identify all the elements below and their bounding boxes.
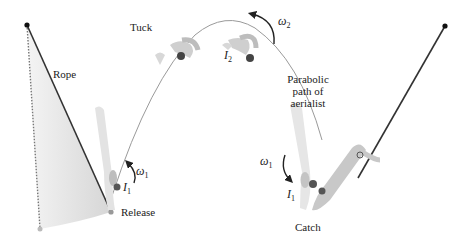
diagram-graphic bbox=[0, 0, 469, 246]
label-catch: Catch bbox=[295, 221, 321, 233]
symbol-omega2: ω2 bbox=[278, 14, 290, 30]
symbol-omega1-left: ω1 bbox=[136, 164, 148, 180]
label-path-line2: path of bbox=[283, 85, 333, 97]
subscript: 1 bbox=[291, 194, 295, 203]
trapeze-bar-rest bbox=[38, 227, 43, 232]
omega1-right-arrow bbox=[283, 155, 290, 180]
subscript: 1 bbox=[127, 187, 131, 196]
label-path-line3: aerialist bbox=[283, 97, 333, 109]
symbol-I1-right: I1 bbox=[287, 187, 295, 203]
pivot-right bbox=[442, 23, 447, 28]
symbol-I1-left: I1 bbox=[123, 180, 131, 196]
subscript: 1 bbox=[268, 161, 272, 170]
label-path-line1: Parabolic bbox=[283, 73, 333, 85]
label-parabolic-path: Parabolic path of aerialist bbox=[283, 73, 333, 109]
symbol-omega1-right: ω1 bbox=[260, 154, 272, 170]
trapeze-diagram: Rope Tuck Release Catch Parabolic path o… bbox=[0, 0, 469, 246]
label-tuck: Tuck bbox=[130, 21, 152, 33]
label-rope: Rope bbox=[53, 68, 76, 80]
label-release: Release bbox=[121, 206, 155, 218]
subscript: 1 bbox=[144, 171, 148, 180]
pivot-left bbox=[24, 22, 29, 27]
aerialist-tuck-left bbox=[155, 40, 198, 65]
catcher bbox=[312, 144, 380, 210]
symbol-I2: I2 bbox=[224, 48, 232, 64]
subscript: 2 bbox=[228, 55, 232, 64]
subscript: 2 bbox=[286, 21, 290, 30]
trapeze-bar-left bbox=[108, 209, 113, 214]
